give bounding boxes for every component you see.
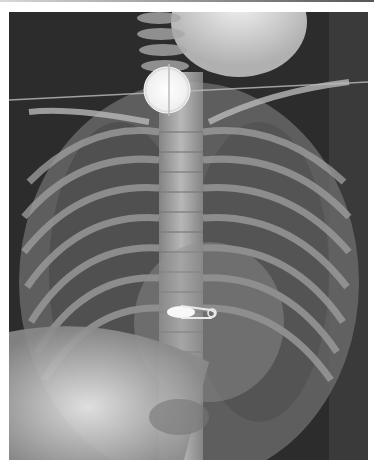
chest-xray-image xyxy=(9,12,368,460)
xray-illustration xyxy=(9,12,368,460)
top-border-line xyxy=(0,0,374,2)
